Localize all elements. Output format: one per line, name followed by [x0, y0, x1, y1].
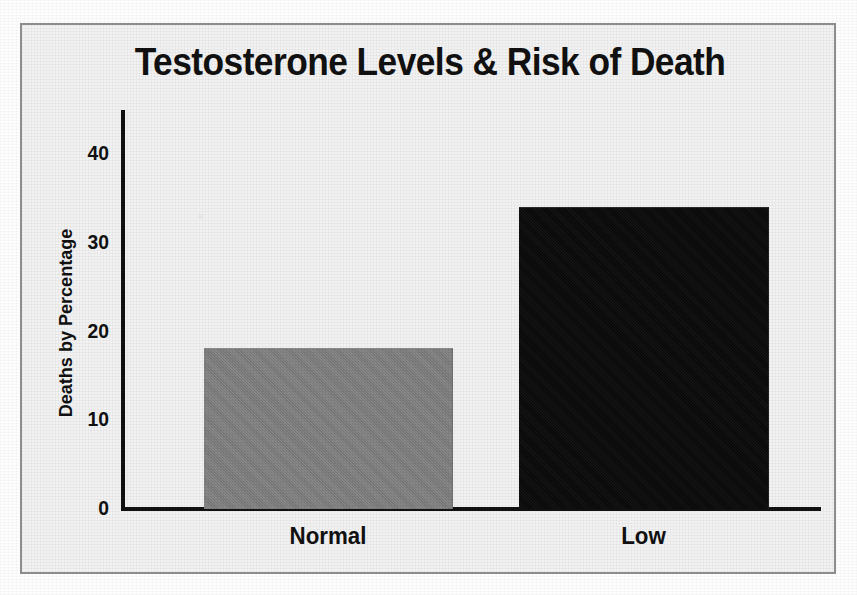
- y-tick-label-20: 20: [54, 319, 109, 343]
- bar-normal: [204, 348, 453, 509]
- plot-area: 40 30 20 10 0 Normal Low: [22, 25, 836, 574]
- y-tick-label-40: 40: [54, 141, 109, 165]
- y-tick-label-0: 0: [54, 496, 109, 520]
- chart-figure: Testosterone Levels & Risk of Death Deat…: [20, 23, 836, 574]
- y-tick-label-10: 10: [54, 407, 109, 431]
- bar-low: [519, 207, 769, 509]
- x-tick-label-low: Low: [528, 522, 760, 550]
- y-axis-line: [121, 110, 125, 511]
- scanned-page: Testosterone Levels & Risk of Death Deat…: [0, 0, 857, 595]
- y-axis-tick-labels: 40 30 20 10 0: [49, 25, 109, 574]
- x-tick-label-normal: Normal: [213, 522, 444, 550]
- y-tick-label-30: 30: [54, 230, 109, 254]
